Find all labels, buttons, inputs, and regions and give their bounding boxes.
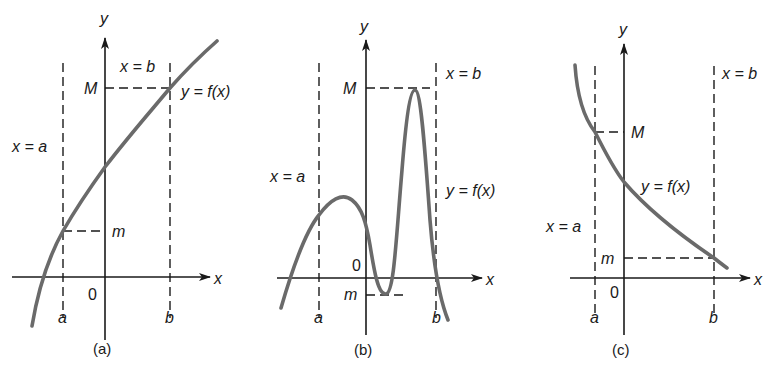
- panel-caption: (b): [354, 341, 372, 358]
- x-axis-label: x: [485, 271, 495, 288]
- line-b-label: x = b: [119, 58, 155, 75]
- y-axis-label: y: [618, 21, 628, 38]
- origin-label: 0: [352, 257, 361, 274]
- b-tick-label: b: [432, 309, 441, 326]
- line-b-label: x = b: [445, 65, 481, 82]
- y-axis-label: y: [99, 10, 109, 27]
- panel-a: y x 0 x = b x = a M m y = f(x) a b (a): [11, 10, 230, 357]
- min-label: m: [344, 286, 357, 303]
- x-axis-label: x: [213, 270, 223, 287]
- curve-label: y = f(x): [445, 182, 495, 199]
- b-tick-label: b: [709, 309, 718, 326]
- a-tick-label: a: [314, 309, 323, 326]
- b-tick-label: b: [165, 309, 174, 326]
- origin-label: 0: [610, 284, 619, 301]
- min-label: m: [601, 250, 614, 267]
- curve-label: y = f(x): [180, 83, 230, 100]
- a-tick-label: a: [58, 309, 67, 326]
- line-a-label: x = a: [11, 138, 47, 155]
- panel-c: y x 0 x = b x = a M m y = f(x) a b (c): [545, 21, 763, 358]
- function-curve: [281, 90, 448, 320]
- x-axis-label: x: [753, 271, 763, 288]
- line-a-label: x = a: [269, 168, 305, 185]
- max-label: M: [84, 80, 98, 97]
- extreme-value-diagram: y x 0 x = b x = a M m y = f(x) a b (a) y…: [0, 0, 770, 365]
- panel-caption: (c): [612, 341, 630, 358]
- max-label: M: [343, 80, 357, 97]
- line-a-label: x = a: [545, 218, 581, 235]
- line-b-label: x = b: [721, 65, 757, 82]
- origin-label: 0: [88, 286, 97, 303]
- a-tick-label: a: [590, 309, 599, 326]
- min-label: m: [112, 223, 125, 240]
- panel-b: y x 0 x = b x = a M m y = f(x) a b (b): [269, 18, 495, 358]
- max-label: M: [631, 124, 645, 141]
- function-curve: [575, 65, 727, 268]
- curve-label: y = f(x): [640, 178, 690, 195]
- panel-caption: (a): [93, 340, 111, 357]
- y-axis-label: y: [359, 18, 369, 35]
